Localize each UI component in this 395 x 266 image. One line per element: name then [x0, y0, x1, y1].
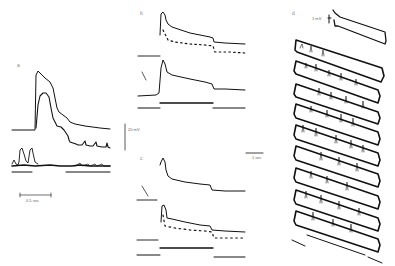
panel-b-label: b	[140, 10, 143, 16]
voltage-scale-label-a: 20 mV	[128, 127, 140, 132]
voltage-scale-label-d: 1 mV	[312, 16, 321, 21]
panel-a-label: a	[17, 62, 20, 68]
panel-c-traces	[137, 158, 245, 257]
panel-b-traces	[138, 12, 245, 108]
panel-d-label: d	[292, 10, 295, 16]
time-scale-label-c: 1 sec	[252, 155, 262, 160]
figure-traces	[0, 0, 395, 266]
time-scale-label-a: 0.5 sec	[26, 198, 39, 203]
panel-a-traces	[12, 71, 125, 197]
electrophysiology-figure: a b c d 20 mV 0.5 sec 1 sec 1 mV	[0, 0, 395, 266]
panel-c-label: c	[140, 155, 143, 161]
panel-d-traces	[292, 10, 386, 263]
